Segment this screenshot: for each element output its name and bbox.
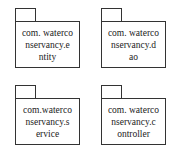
package-tab xyxy=(101,8,122,21)
package-tab xyxy=(101,85,122,98)
package-label: com.waterco nservancy.s ervice xyxy=(16,104,79,140)
package-label: com. waterco nservancy.c ontroller xyxy=(102,104,165,140)
package-service: com.waterco nservancy.s ervice xyxy=(15,85,80,145)
package-label: com. waterco nservancy.d ao xyxy=(102,27,165,63)
package-dao: com. waterco nservancy.d ao xyxy=(101,8,166,68)
package-tab xyxy=(15,85,36,98)
package-label: com. waterco nservancy.e ntity xyxy=(16,27,79,63)
package-body: com.waterco nservancy.s ervice xyxy=(15,98,80,145)
package-body: com. waterco nservancy.d ao xyxy=(101,21,166,68)
package-entity: com. waterco nservancy.e ntity xyxy=(15,8,80,68)
package-body: com. waterco nservancy.e ntity xyxy=(15,21,80,68)
package-tab xyxy=(15,8,36,21)
package-controller: com. waterco nservancy.c ontroller xyxy=(101,85,166,145)
package-body: com. waterco nservancy.c ontroller xyxy=(101,98,166,145)
